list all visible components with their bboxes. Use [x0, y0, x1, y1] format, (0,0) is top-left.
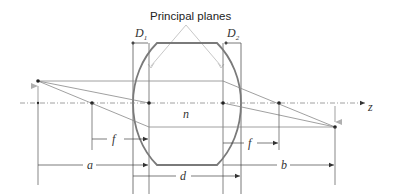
object-point: [36, 79, 40, 83]
d2-label: D2: [226, 26, 240, 42]
front-focal-length-label: f: [112, 132, 117, 146]
back-focal-length-label: f: [248, 136, 253, 150]
principal-plane-pointers: [148, 25, 224, 68]
d1-label: D1: [134, 26, 147, 42]
key-points: [36, 79, 337, 129]
image-distance-label: b: [281, 158, 287, 172]
z-axis-label: z: [367, 100, 373, 114]
principal-planes-title: Principal planes: [150, 10, 231, 22]
refractive-index-label: n: [183, 107, 189, 121]
thickness-label: d: [180, 169, 187, 183]
dimension-lines: [38, 139, 334, 176]
thick-lens-diagram: Principal planes D1 D2 z: [0, 0, 393, 194]
principal-point-2: [221, 101, 225, 105]
object-distance-label: a: [87, 158, 93, 172]
principal-point-1: [147, 101, 151, 105]
